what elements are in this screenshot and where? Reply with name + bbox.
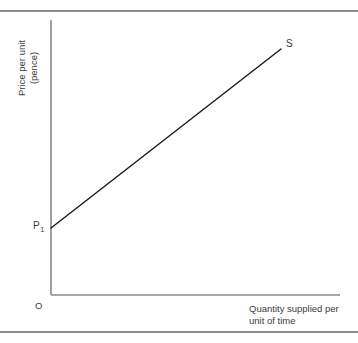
price-intercept-label: P1 — [33, 220, 44, 231]
supply-curve-line — [51, 49, 281, 228]
x-axis-title: Quantity supplied per unit of time — [249, 303, 339, 327]
x-axis-title-line1: Quantity supplied per — [249, 303, 339, 314]
price-intercept-subscript: 1 — [40, 225, 44, 234]
origin-label: O — [35, 300, 42, 311]
price-intercept-letter: P — [33, 220, 40, 231]
y-axis-title: Price per unit (pence) — [16, 18, 40, 118]
plot-area — [0, 0, 358, 343]
x-axis-title-line2: unit of time — [249, 315, 339, 327]
supply-curve-figure: Price per unit (pence) Quantity supplied… — [0, 0, 358, 343]
supply-curve-label: S — [286, 38, 293, 49]
y-axis-title-line1: Price per unit — [16, 40, 27, 96]
y-axis-title-line2: (pence) — [28, 18, 40, 118]
